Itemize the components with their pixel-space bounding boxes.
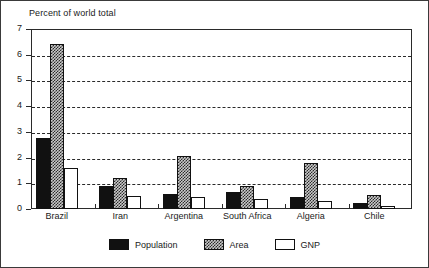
x-axis-label: Brazil bbox=[45, 211, 68, 221]
legend-label: GNP bbox=[301, 240, 321, 250]
y-axis-tick-label: 4 bbox=[1, 100, 22, 110]
x-axis-group-separator bbox=[95, 204, 96, 209]
chart-legend: PopulationAreaGNP bbox=[1, 239, 428, 250]
bar-group bbox=[95, 29, 159, 209]
legend-item[interactable]: Area bbox=[204, 239, 249, 250]
bar-gnp bbox=[381, 206, 395, 209]
legend-swatch-gnp bbox=[275, 239, 295, 250]
x-axis-label: Algeria bbox=[297, 211, 325, 221]
bar-population bbox=[290, 197, 304, 209]
legend-swatch-population bbox=[109, 239, 129, 250]
y-axis-tick-label: 1 bbox=[1, 177, 22, 187]
x-axis-label: South Africa bbox=[223, 211, 272, 221]
bar-gnp bbox=[64, 168, 78, 209]
bar-gnp bbox=[254, 199, 268, 209]
x-axis-group-separator bbox=[222, 204, 223, 209]
bar-group bbox=[222, 29, 286, 209]
x-axis-label: Iran bbox=[112, 211, 128, 221]
y-axis-tick-label: 2 bbox=[1, 152, 22, 162]
y-axis-tick-label: 5 bbox=[1, 74, 22, 84]
bar-area bbox=[304, 163, 318, 209]
x-axis-label: Chile bbox=[364, 211, 385, 221]
bar-group bbox=[31, 29, 95, 209]
bar-area bbox=[367, 195, 381, 209]
x-axis-group-separator bbox=[285, 204, 286, 209]
bar-area bbox=[240, 186, 254, 209]
bar-population bbox=[99, 186, 113, 209]
x-axis-label: Argentina bbox=[164, 211, 203, 221]
legend-item[interactable]: GNP bbox=[275, 239, 321, 250]
legend-item[interactable]: Population bbox=[109, 239, 178, 250]
bar-area bbox=[177, 156, 191, 209]
bar-gnp bbox=[127, 196, 141, 209]
bar-area bbox=[50, 44, 64, 209]
x-axis-group-separator bbox=[158, 204, 159, 209]
bar-area bbox=[113, 178, 127, 209]
legend-label: Area bbox=[230, 240, 249, 250]
x-axis-labels: BrazilIranArgentinaSouth AfricaAlgeriaCh… bbox=[31, 211, 412, 225]
bar-population bbox=[226, 192, 240, 209]
bar-group bbox=[158, 29, 222, 209]
chart-figure: Percent of world total 01234567 BrazilIr… bbox=[0, 0, 429, 268]
bar-population bbox=[36, 138, 50, 209]
chart-title: Percent of world total bbox=[29, 8, 116, 18]
legend-swatch-area bbox=[204, 239, 224, 250]
y-axis-tick-label: 0 bbox=[1, 203, 22, 213]
bar-group bbox=[349, 29, 413, 209]
bar-population bbox=[163, 194, 177, 209]
bar-population bbox=[353, 203, 367, 209]
bar-groups bbox=[31, 29, 412, 209]
x-axis-group-separator bbox=[349, 204, 350, 209]
y-axis-tick bbox=[26, 209, 31, 210]
legend-label: Population bbox=[135, 240, 178, 250]
y-axis-tick-label: 3 bbox=[1, 126, 22, 136]
y-axis-tick-label: 6 bbox=[1, 49, 22, 59]
y-axis-tick-label: 7 bbox=[1, 23, 22, 33]
bar-gnp bbox=[191, 197, 205, 209]
bar-group bbox=[285, 29, 349, 209]
bar-gnp bbox=[318, 201, 332, 209]
